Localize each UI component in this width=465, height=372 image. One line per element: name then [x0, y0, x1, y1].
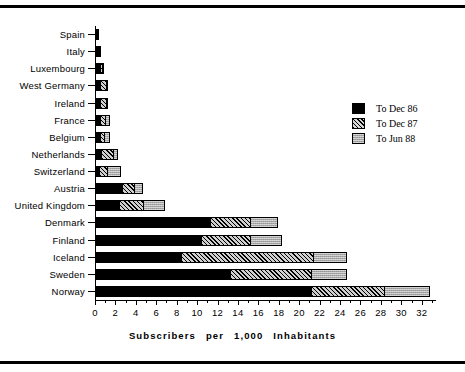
y-axis-label: Luxembourg [30, 63, 85, 74]
y-axis-label: Switzerland [34, 166, 85, 177]
legend-label: To Jun 88 [376, 133, 415, 144]
bar-segment [101, 150, 113, 159]
x-tick-minor [248, 300, 249, 303]
x-tick-label: 30 [396, 307, 407, 318]
y-axis-label: France [54, 115, 85, 126]
x-axis-title-word: per [206, 330, 224, 341]
stacked-bar [95, 235, 282, 246]
y-axis-label: Denmark [45, 217, 85, 228]
bar-segment [106, 81, 107, 90]
bar-segment [107, 167, 120, 176]
y-axis-tick [88, 171, 95, 172]
x-tick-minor [309, 300, 310, 303]
y-axis-tick [88, 34, 95, 35]
stacked-bar [95, 29, 99, 40]
x-tick-minor [289, 300, 290, 303]
stacked-bar [95, 217, 278, 228]
bar-row: Netherlands [95, 149, 118, 160]
bar-segment [96, 287, 311, 296]
x-axis-title: Subscribersper1,000Inhabitants [0, 330, 465, 341]
y-axis-label: Spain [60, 29, 85, 40]
x-tick-major [401, 300, 402, 305]
x-tick-minor [350, 300, 351, 303]
bar-segment [134, 184, 142, 193]
x-tick-label: 4 [133, 307, 139, 318]
legend-label: To Dec 86 [376, 103, 418, 114]
x-tick-major [360, 300, 361, 305]
bar-segment [105, 116, 109, 125]
x-axis-title-word: 1,000 [234, 330, 263, 341]
stacked-bar [95, 149, 118, 160]
x-tick-major [218, 300, 219, 305]
stacked-bar [95, 269, 347, 280]
y-axis-tick [88, 137, 95, 138]
bar-rows: SpainItalyLuxembourgWest GermanyIrelandF… [95, 26, 435, 300]
bar-segment [99, 167, 107, 176]
y-axis-label: Belgium [49, 132, 85, 143]
y-axis-tick [88, 154, 95, 155]
y-axis-tick [88, 85, 95, 86]
bar-row: West Germany [95, 80, 108, 91]
top-rule [0, 5, 465, 8]
stacked-bar [95, 115, 110, 126]
legend-swatch-icon [352, 133, 365, 144]
y-axis-tick [88, 120, 95, 121]
bar-segment [96, 253, 181, 262]
x-tick-major [115, 300, 116, 305]
legend-entry[interactable]: To Dec 86 [352, 101, 418, 116]
stacked-bar [95, 252, 347, 263]
x-tick-minor [371, 300, 372, 303]
bar-row: Finland [95, 235, 282, 246]
x-tick-minor [126, 300, 127, 303]
x-tick-minor [187, 300, 188, 303]
y-axis-label: Austria [54, 183, 85, 194]
bar-segment [96, 236, 201, 245]
bar-row: Ireland [95, 98, 108, 109]
bar-segment [250, 218, 277, 227]
bar-segment [143, 201, 164, 210]
x-tick-label: 6 [153, 307, 159, 318]
x-tick-major [299, 300, 300, 305]
x-tick-minor [269, 300, 270, 303]
bar-segment [113, 150, 117, 159]
legend-swatch-icon [352, 118, 365, 129]
x-tick-minor [412, 300, 413, 303]
bar-segment [313, 253, 346, 262]
y-axis-label: United Kingdom [15, 200, 85, 211]
x-tick-major [320, 300, 321, 305]
legend-entry[interactable]: To Jun 88 [352, 131, 418, 146]
x-tick-label: 16 [253, 307, 264, 318]
bar-segment [102, 64, 103, 73]
bar-row: Italy [95, 46, 101, 57]
x-axis-title-word: Inhabitants [273, 330, 336, 341]
y-axis-tick [88, 188, 95, 189]
x-tick-minor [330, 300, 331, 303]
y-axis-label: Netherlands [32, 149, 85, 160]
bar-segment [201, 236, 250, 245]
y-axis-tick [88, 222, 95, 223]
y-axis-tick [88, 274, 95, 275]
y-axis-label: Italy [67, 46, 85, 57]
x-tick-major [422, 300, 423, 305]
x-tick-label: 10 [192, 307, 203, 318]
x-tick-label: 24 [334, 307, 345, 318]
x-tick-label: 8 [174, 307, 180, 318]
x-tick-major [156, 300, 157, 305]
stacked-bar [95, 80, 108, 91]
chart-page: SpainItalyLuxembourgWest GermanyIrelandF… [0, 0, 465, 372]
bar-segment [210, 218, 250, 227]
x-tick-label: 26 [355, 307, 366, 318]
stacked-bar [95, 63, 104, 74]
legend-entry[interactable]: To Dec 87 [352, 116, 418, 131]
x-tick-minor [391, 300, 392, 303]
stacked-bar [95, 183, 143, 194]
bar-segment [250, 236, 281, 245]
x-tick-major [238, 300, 239, 305]
stacked-bar [95, 46, 101, 57]
x-tick-label: 2 [113, 307, 119, 318]
bar-row: Austria [95, 183, 143, 194]
bar-segment [104, 133, 109, 142]
x-tick-major [381, 300, 382, 305]
bar-segment [384, 287, 429, 296]
y-axis-tick [88, 257, 95, 258]
